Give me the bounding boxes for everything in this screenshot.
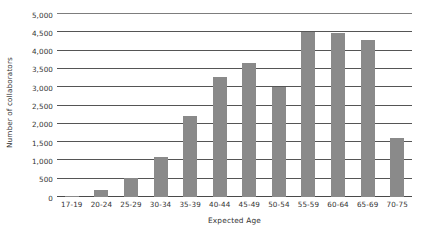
y-axis-tick-label: 3,000 (32, 83, 53, 92)
bar-slot (382, 14, 412, 197)
x-axis-tick-label: 55-59 (298, 200, 319, 209)
bar-slot (205, 14, 235, 197)
x-axis-tick-label: 40-44 (209, 200, 230, 209)
bar-slot (175, 14, 205, 197)
plot-area: 05001,0001,5002,0002,5003,0003,5004,0004… (57, 14, 412, 197)
x-axis-ticks: 17-1920-2425-2930-3435-3940-4445-4950-54… (57, 200, 412, 214)
x-axis-tick-label: 45-49 (239, 200, 260, 209)
bar-slot (146, 14, 176, 197)
y-axis-tick-label: 0 (48, 193, 53, 202)
y-axis-tick-label: 2,000 (32, 120, 53, 129)
bar (213, 77, 227, 197)
bar (183, 116, 197, 197)
bar-slot (116, 14, 146, 197)
x-axis-tick-label: 20-24 (91, 200, 112, 209)
y-axis-tick-label: 4,000 (32, 47, 53, 56)
bar (242, 63, 256, 197)
bars (57, 14, 412, 197)
bar (154, 157, 168, 197)
bar-slot (57, 14, 87, 197)
bar-slot (353, 14, 383, 197)
y-axis-title: Number of collaborators (0, 0, 18, 205)
x-axis-title-label: Expected Age (208, 216, 261, 225)
x-axis-tick-label: 60-64 (327, 200, 348, 209)
bar-slot (323, 14, 353, 197)
bar-chart: Number of collaborators 05001,0001,5002,… (0, 0, 426, 243)
bar (94, 190, 108, 197)
bar-slot (294, 14, 324, 197)
bar (331, 33, 345, 197)
x-axis-tick-label: 17-19 (61, 200, 82, 209)
bar-slot (235, 14, 265, 197)
x-axis-tick-label: 65-69 (357, 200, 378, 209)
y-axis-tick-label: 2,500 (32, 102, 53, 111)
x-axis-tick-label: 70-75 (387, 200, 408, 209)
y-axis-tick-label: 4,500 (32, 28, 53, 37)
bar (361, 40, 375, 197)
x-axis-tick-label: 50-54 (268, 200, 289, 209)
bar-slot (264, 14, 294, 197)
bar (124, 178, 138, 197)
x-axis-tick-label: 25-29 (120, 200, 141, 209)
y-axis-title-label: Number of collaborators (5, 57, 14, 148)
bar (65, 196, 79, 197)
y-axis-tick-label: 5,000 (32, 10, 53, 19)
x-axis-tick-label: 30-34 (150, 200, 171, 209)
y-axis-tick-label: 1,000 (32, 156, 53, 165)
y-axis-tick-label: 1,500 (32, 138, 53, 147)
y-axis-tick-label: 500 (39, 175, 53, 184)
bar (301, 32, 315, 197)
bar-slot (87, 14, 117, 197)
x-axis-title: Expected Age (57, 216, 412, 225)
y-axis-tick-label: 3,500 (32, 65, 53, 74)
x-axis-tick-label: 35-39 (179, 200, 200, 209)
bar (390, 138, 404, 197)
bar (272, 87, 286, 197)
